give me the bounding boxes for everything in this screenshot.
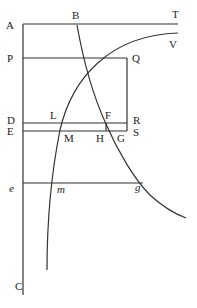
label-e: e — [9, 182, 14, 194]
label-V: V — [169, 38, 177, 50]
diagram-canvas: A B T V P Q D L F R E M H G S e m g C — [0, 0, 197, 308]
label-Q: Q — [132, 52, 140, 64]
label-T: T — [172, 8, 179, 20]
label-G: G — [117, 132, 125, 144]
label-m: m — [57, 183, 65, 195]
label-A: A — [6, 19, 14, 31]
label-M: M — [64, 132, 74, 144]
curve-V-Lm — [47, 33, 178, 270]
label-L: L — [50, 109, 57, 121]
label-F: F — [105, 109, 111, 121]
label-P: P — [7, 52, 13, 64]
label-S: S — [133, 126, 139, 138]
label-E: E — [7, 125, 14, 137]
label-B: B — [72, 9, 79, 21]
label-C: C — [15, 280, 22, 292]
label-R: R — [133, 114, 141, 126]
label-g: g — [135, 181, 141, 193]
label-H: H — [96, 132, 104, 144]
